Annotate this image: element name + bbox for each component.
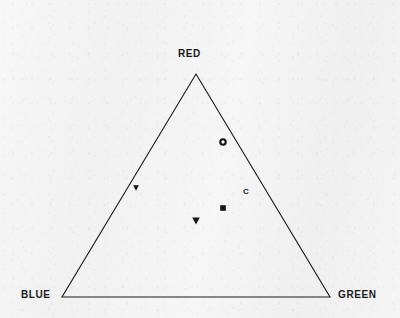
ternary-triangle-outline [62, 74, 330, 297]
data-point-marker-a [192, 218, 200, 225]
corner-label-red: RED [178, 48, 201, 59]
data-point-marker-b [220, 205, 226, 211]
ternary-diagram-figure: RED BLUE GREEN C [0, 0, 400, 318]
data-point-markers [133, 139, 226, 224]
corner-label-blue: BLUE [21, 289, 51, 300]
data-point-label-c: C [243, 187, 249, 196]
corner-label-green: GREEN [338, 289, 377, 300]
data-point-marker-d [220, 139, 225, 144]
data-point-marker-e [133, 185, 139, 190]
